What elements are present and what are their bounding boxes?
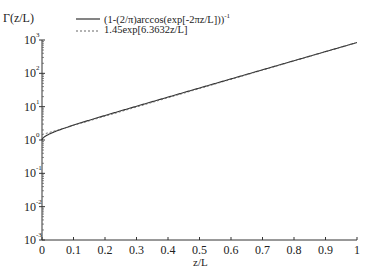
x-tick-label: 0.6: [224, 243, 239, 257]
y-tick-exponent: -3: [36, 231, 42, 239]
y-tick-label: 10: [24, 100, 36, 114]
y-tick-label: 10: [24, 33, 36, 47]
y-tick-exponent: -1: [36, 164, 42, 172]
x-tick-label: 0.7: [255, 243, 270, 257]
y-tick-label: 10: [24, 166, 36, 180]
x-tick-label: 0.8: [287, 243, 302, 257]
y-tick-exponent: 3: [36, 31, 40, 39]
legend-label-solid-exp: -1: [224, 12, 230, 20]
y-axis-label: Γ(z/L): [3, 11, 34, 26]
legend-entry-dashed: 1.45exp[6.3632z/L]: [104, 24, 187, 35]
y-tick-label: 10: [24, 133, 36, 147]
x-tick-label: 0.5: [192, 243, 207, 257]
y-tick-label: 10: [24, 66, 36, 80]
legend-label-dashed: 1.45exp[6.3632z/L]: [104, 24, 187, 35]
y-tick-exponent: 1: [36, 98, 40, 106]
x-tick-label: 1: [354, 243, 360, 257]
legend-label-solid: (1-(2/π)arccos(exp[-2πz/L])): [104, 14, 224, 25]
y-tick-label: 10: [24, 200, 36, 214]
x-axis-label: z/L: [193, 256, 208, 268]
x-tick-label: 0: [39, 243, 45, 257]
x-tick-label: 0.3: [129, 243, 144, 257]
legend-entry-solid: (1-(2/π)arccos(exp[-2πz/L]))-1: [104, 12, 230, 25]
y-tick-exponent: 0: [36, 131, 40, 139]
y-tick-exponent: 2: [36, 64, 40, 72]
x-tick-label: 0.9: [318, 243, 333, 257]
y-tick-exponent: -2: [36, 198, 42, 206]
series-solid-line: [42, 43, 357, 141]
x-tick-label: 0.1: [66, 243, 81, 257]
x-tick-label: 0.4: [161, 243, 176, 257]
x-tick-label: 0.2: [98, 243, 113, 257]
y-tick-label: 10: [24, 233, 36, 247]
chart-canvas: 10310210110010-110-210-300.10.20.30.40.5…: [0, 0, 380, 277]
